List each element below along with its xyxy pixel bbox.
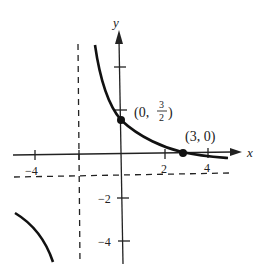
svg-text:3: 3 — [159, 99, 164, 110]
point-label-x-intercept: (3, 0) — [185, 129, 216, 145]
graph-figure: y x −4 2 4 −2 −4 (0, 3 2 ) (3, 0) — [0, 0, 272, 272]
svg-text:): ) — [168, 105, 173, 121]
tick-label-x-neg4: −4 — [25, 164, 38, 178]
svg-text:2: 2 — [159, 112, 164, 123]
function-plot: y x −4 2 4 −2 −4 (0, 3 2 ) (3, 0) — [0, 0, 272, 272]
tick-label-y-neg4: −4 — [98, 235, 111, 249]
point-label-y-intercept: (0, 3 2 ) — [134, 99, 173, 123]
y-axis — [119, 40, 123, 264]
y-axis-label: y — [111, 15, 119, 30]
tick-label-x-4: 4 — [204, 161, 210, 175]
point-x-intercept — [179, 149, 187, 157]
x-axis-label: x — [246, 145, 253, 160]
tick-label-x-2: 2 — [161, 162, 167, 176]
curve-left-branch — [15, 213, 53, 262]
tick-label-y-neg2: −2 — [98, 192, 111, 206]
svg-text:(0,: (0, — [134, 105, 149, 121]
point-y-intercept — [117, 116, 125, 124]
x-axis-arrow-icon — [230, 148, 242, 156]
y-axis-arrow-icon — [115, 30, 123, 44]
